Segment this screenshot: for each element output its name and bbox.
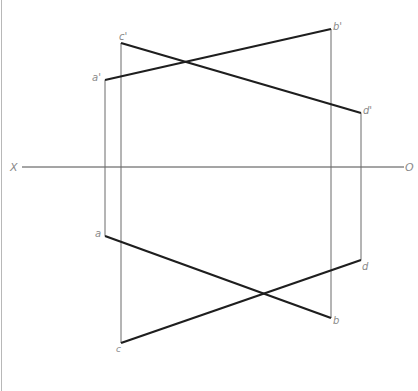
label-d: d [362, 262, 368, 272]
label-a-prime: a' [92, 73, 101, 83]
label-x-axis: X [10, 162, 18, 173]
label-c: c [116, 345, 121, 354]
label-o-axis: O [405, 162, 414, 173]
label-a: a [95, 229, 101, 239]
segment-c-primed-prime [121, 43, 361, 113]
label-b-prime: b' [333, 22, 342, 32]
label-d-prime: d' [363, 106, 372, 116]
projection-drawing [0, 0, 418, 391]
label-b: b [333, 316, 339, 326]
segment-ab [105, 236, 331, 318]
object-lines [105, 29, 361, 343]
segment-cd [121, 260, 361, 343]
label-c-prime: c' [119, 32, 127, 42]
